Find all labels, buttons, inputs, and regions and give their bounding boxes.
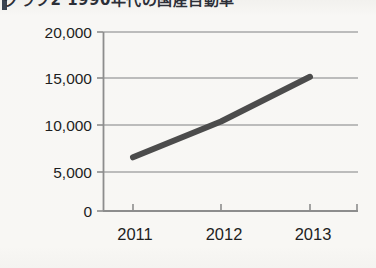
x-tick-labels: 2011 2012 2013 (117, 225, 331, 243)
y-tick-label-10000: 10,000 (45, 117, 93, 134)
y-tick-labels: 20,000 15,000 10,000 5,000 0 (45, 24, 93, 220)
x-tick-label-2012: 2012 (206, 225, 243, 243)
y-tick-label-0: 0 (83, 203, 92, 220)
y-tick-label-15000: 15,000 (45, 70, 93, 87)
y-tick-label-20000: 20,000 (45, 24, 93, 41)
x-tick-label-2013: 2013 (295, 225, 332, 243)
x-tick-label-2011: 2011 (117, 225, 152, 243)
data-series-line (133, 77, 310, 158)
line-chart: 20,000 15,000 10,000 5,000 0 2011 2012 2… (0, 0, 376, 268)
y-tick-label-5000: 5,000 (53, 164, 92, 181)
chart-canvas: 20,000 15,000 10,000 5,000 0 2011 2012 2… (0, 0, 376, 268)
x-axis (103, 204, 358, 211)
y-axis (97, 32, 104, 211)
